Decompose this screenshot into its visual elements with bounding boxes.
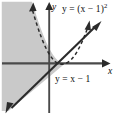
parabola-equation-label: y = (x − 1)2 [62,2,107,14]
line-equation-label: y = x − 1 [55,74,90,84]
graph-canvas [0,0,119,121]
shaded-solution-region [2,2,66,112]
x-axis-label: x [108,66,112,76]
y-axis-label: y [52,2,56,12]
parabola-right-arrow [85,21,91,31]
graph-figure: y = (x − 1)2 y = x − 1 x y [0,0,119,121]
